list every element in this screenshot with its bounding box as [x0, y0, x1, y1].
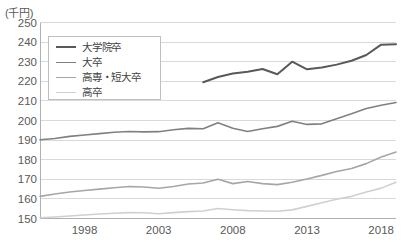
legend-item-label: 高卒 — [82, 86, 102, 98]
legend-swatch-line-icon — [56, 92, 76, 93]
legend-item-label: 大学院卒 — [82, 41, 121, 53]
legend-swatch-line-icon — [56, 62, 76, 63]
series-line — [40, 182, 396, 217]
series-line — [40, 102, 396, 139]
legend-item-label: 大卒 — [82, 56, 102, 68]
x-axis-tick-label: 2018 — [368, 224, 394, 236]
legend-item[interactable]: 大学院卒 — [49, 40, 160, 54]
legend-swatch-line-icon — [56, 77, 76, 78]
line-chart: (千円) 250240230220210200190180170160150 1… — [0, 0, 406, 242]
legend-swatch-line-icon — [56, 46, 76, 48]
x-axis-tick-label: 2008 — [220, 224, 246, 236]
legend-item[interactable]: 高専・短大卒 — [49, 70, 160, 84]
legend-item[interactable]: 高卒 — [49, 85, 160, 99]
legend-item[interactable]: 大卒 — [49, 55, 160, 69]
series-line — [203, 44, 396, 82]
legend-item-label: 高専・短大卒 — [82, 71, 141, 83]
x-axis-tick-label: 1998 — [72, 224, 98, 236]
series-line — [40, 152, 396, 196]
legend: 大学院卒大卒高専・短大卒高卒 — [48, 36, 161, 100]
x-axis-tick-label: 2013 — [294, 224, 320, 236]
x-axis-tick-label: 2003 — [146, 224, 172, 236]
